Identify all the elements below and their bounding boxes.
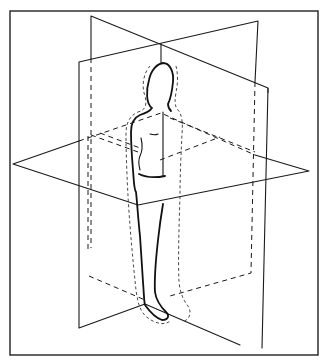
anatomical-planes-diagram: [0, 0, 328, 361]
diagram-canvas: [0, 0, 328, 361]
